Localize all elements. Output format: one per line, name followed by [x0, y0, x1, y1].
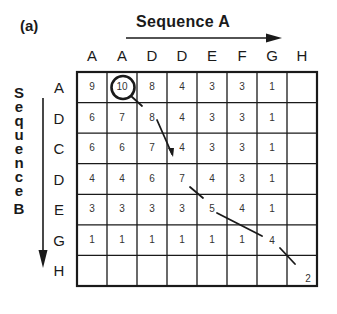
matrix-cell: 1 [77, 234, 107, 245]
matrix-cell: 4 [257, 235, 287, 246]
matrix-cell: 6 [107, 142, 137, 153]
matrix-cell: 1 [257, 81, 287, 92]
matrix-cell: 5 [197, 203, 227, 214]
matrix-cell: 4 [167, 142, 197, 153]
matrix-cell: 3 [137, 203, 167, 214]
matrix-cell: 9 [77, 81, 107, 92]
matrix-cell: 3 [77, 203, 107, 214]
matrix-cell: 1 [257, 142, 287, 153]
matrix-cell: 1 [257, 203, 287, 214]
sequence-a-arrow-icon [126, 34, 282, 43]
sequence-a-letter: F [227, 47, 257, 64]
matrix-cell: 1 [137, 234, 167, 245]
sequence-b-letter: A [50, 79, 68, 96]
sequence-b-letter: E [50, 201, 68, 218]
matrix-cell: 7 [137, 142, 167, 153]
sequence-b-letter: C [50, 140, 68, 157]
sequence-a-letter: H [287, 47, 317, 64]
sequence-a-letter: D [137, 47, 167, 64]
matrix-cell: 6 [77, 142, 107, 153]
sequence-a-letter: D [167, 47, 197, 64]
matrix-cell: 3 [197, 112, 227, 123]
matrix-cell: 4 [77, 173, 107, 184]
matrix-cell: 4 [107, 173, 137, 184]
matrix-cell: 3 [167, 203, 197, 214]
sequence-b-letter: H [50, 262, 68, 279]
sequence-b-arrow-icon [39, 98, 48, 268]
matrix-cell: 8 [137, 112, 167, 123]
matrix-cell: 1 [107, 234, 137, 245]
matrix-cell: 3 [107, 203, 137, 214]
matrix-cell: 3 [227, 81, 257, 92]
matrix-cell: 1 [257, 112, 287, 123]
matrix-cell: 1 [227, 234, 257, 245]
matrix-cell: 3 [197, 142, 227, 153]
matrix-cell: 3 [227, 173, 257, 184]
matrix-cell: 4 [167, 81, 197, 92]
sequence-a-letter: E [197, 47, 227, 64]
matrix-cell: 3 [227, 112, 257, 123]
sequence-a-letter: A [107, 47, 137, 64]
matrix-cell: 2 [293, 273, 323, 284]
matrix-cell: 7 [167, 173, 197, 184]
sequence-a-letter: G [257, 47, 287, 64]
matrix-cell: 4 [167, 112, 197, 123]
sequence-b-letter: G [50, 232, 68, 249]
matrix-cell: 4 [227, 203, 257, 214]
matrix-cell: 7 [107, 112, 137, 123]
sequence-b-letter: D [50, 110, 68, 127]
sequence-b-letter: D [50, 171, 68, 188]
matrix-cell: 10 [107, 81, 137, 92]
sequence-a-letter: A [77, 47, 107, 64]
matrix-cell: 3 [197, 81, 227, 92]
matrix-cell: 3 [227, 142, 257, 153]
matrix-cell: 6 [77, 112, 107, 123]
matrix-cell: 1 [257, 173, 287, 184]
matrix-cell: 8 [137, 81, 167, 92]
matrix-cell: 6 [137, 173, 167, 184]
matrix-cell: 4 [197, 173, 227, 184]
matrix-cell: 1 [197, 234, 227, 245]
matrix-cell: 1 [167, 234, 197, 245]
